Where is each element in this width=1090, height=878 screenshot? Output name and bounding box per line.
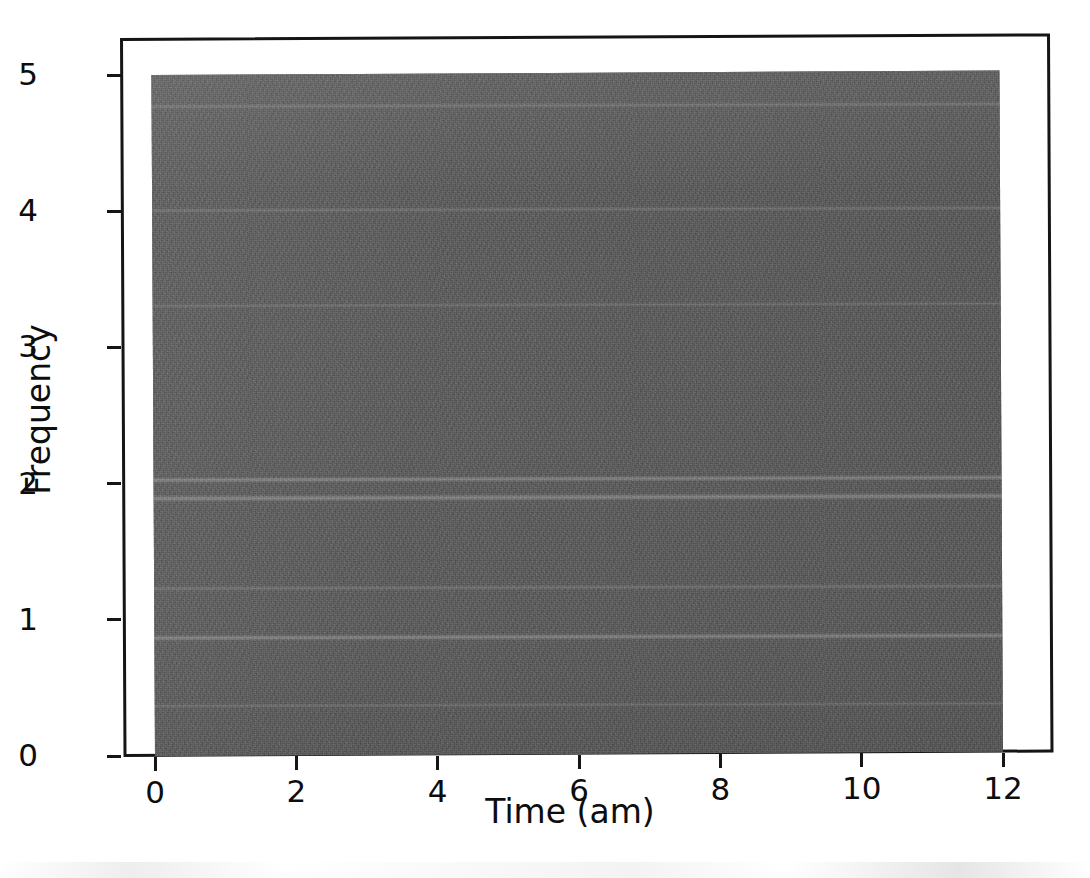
y-tick-mark: [107, 346, 121, 349]
x-axis-title: Time (am): [0, 792, 1090, 831]
x-tick-mark: [578, 755, 581, 769]
x-axis-title-text: Time (am): [485, 792, 654, 831]
y-tick-mark: [107, 482, 121, 485]
x-tick-mark: [1002, 753, 1005, 767]
x-tick-mark: [719, 754, 722, 768]
x-tick-mark: [436, 756, 439, 770]
y-tick-label: 5: [18, 59, 38, 90]
scan-edge-artifact: [0, 862, 1090, 878]
x-tick-mark: [295, 756, 298, 770]
y-tick-mark: [107, 74, 121, 77]
y-tick-label: 0: [18, 740, 38, 771]
y-tick-mark: [107, 755, 121, 758]
y-axis-title-text: Frequency: [19, 324, 58, 494]
spectrogram-image: [151, 71, 1003, 756]
y-tick-mark: [107, 210, 121, 213]
figure-canvas: 012345 024681012 Frequency Time (am): [0, 0, 1090, 878]
y-axis-title: Frequency: [19, 110, 58, 710]
spectrogram-grain-overlay: [151, 71, 1003, 756]
x-tick-mark: [860, 753, 863, 767]
y-tick-mark: [107, 618, 121, 621]
x-tick-mark: [154, 757, 157, 771]
